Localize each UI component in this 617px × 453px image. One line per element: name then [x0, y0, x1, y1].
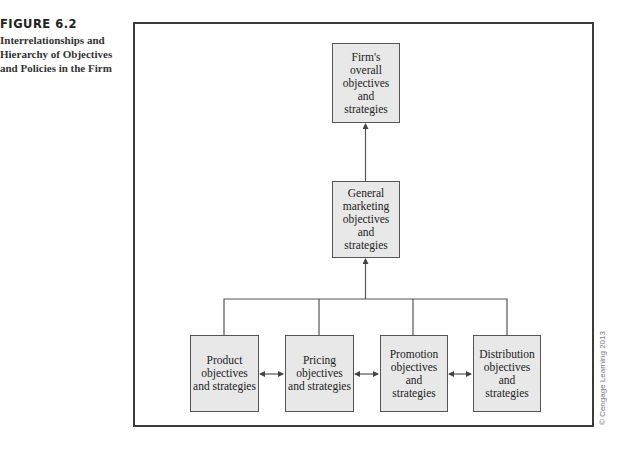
node-firm-objectives: Firm's overall objectives and strategies	[332, 43, 400, 123]
node-marketing-objectives: General marketing objectives and strateg…	[332, 181, 400, 258]
node-promotion-objectives: Promotion objectives and strategies	[380, 335, 448, 412]
node-pricing-objectives: Pricing objectives and strategies	[285, 335, 354, 412]
node-label: Pricing objectives and strategies	[288, 354, 351, 393]
node-label: Product objectives and strategies	[193, 354, 256, 393]
copyright-credit: © Cengage Learning 2013	[598, 331, 607, 425]
node-product-objectives: Product objectives and strategies	[190, 335, 259, 412]
node-label: General marketing objectives and strateg…	[335, 187, 397, 252]
node-label: Distribution objectives and strategies	[476, 348, 538, 400]
node-distribution-objectives: Distribution objectives and strategies	[473, 335, 541, 412]
node-label: Firm's overall objectives and strategies	[335, 51, 397, 116]
node-label: Promotion objectives and strategies	[383, 348, 445, 400]
